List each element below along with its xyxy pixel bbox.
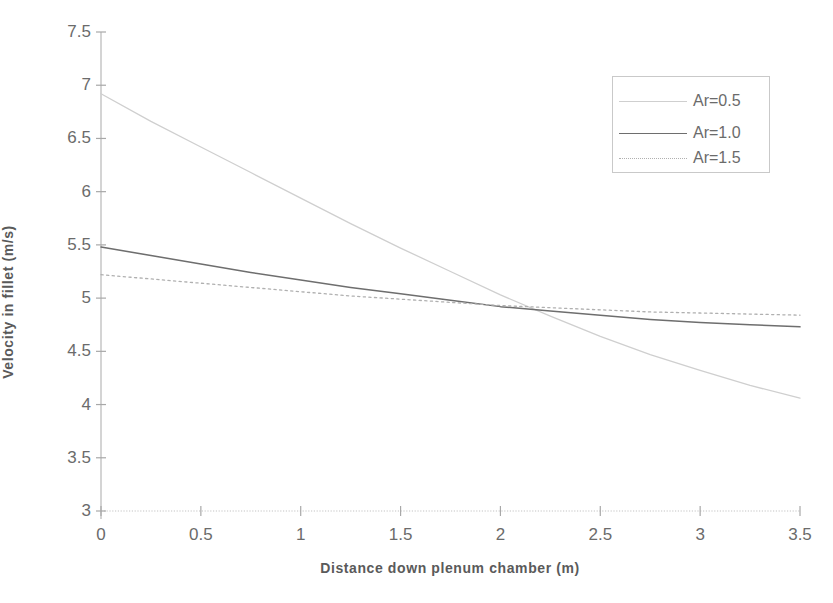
x-axis-tick-label: 3.5	[788, 525, 812, 545]
series-line-ar-1-0	[101, 247, 800, 327]
y-axis-title: Velocity in fillet (m/s)	[0, 162, 16, 442]
y-axis-tick-label: 7	[33, 75, 91, 95]
x-axis-tick-label: 2	[496, 525, 505, 545]
series-line-ar-1-5	[101, 275, 800, 315]
x-axis-tick-label: 2.5	[588, 525, 612, 545]
y-axis-tick-label: 6.5	[33, 128, 91, 148]
y-axis-tick-label: 5	[33, 288, 91, 308]
legend-item-ar-1-5[interactable]: Ar=1.5	[613, 142, 769, 174]
x-axis-tick-label: 0	[96, 525, 105, 545]
y-axis-tick-label: 4.5	[33, 341, 91, 361]
x-axis-tick-label: 0.5	[189, 525, 213, 545]
y-axis-tick-label: 3	[33, 501, 91, 521]
legend-line-sample	[619, 95, 687, 107]
legend-label: Ar=1.0	[693, 124, 741, 142]
x-axis-tick-label: 3	[695, 525, 704, 545]
y-axis-tick-label: 5.5	[33, 235, 91, 255]
x-axis-title: Distance down plenum chamber (m)	[320, 560, 580, 576]
legend-line-sample	[619, 152, 687, 164]
chart-figure: 33.544.555.566.577.5 00.511.522.533.5 Ve…	[0, 0, 833, 603]
y-axis-tick-label: 7.5	[33, 22, 91, 42]
x-axis-tick-label: 1.5	[389, 525, 413, 545]
y-axis-tick-label: 4	[33, 395, 91, 415]
legend: Ar=0.5Ar=1.0Ar=1.5	[612, 76, 770, 173]
legend-item-ar-0-5[interactable]: Ar=0.5	[613, 85, 769, 117]
legend-label: Ar=0.5	[693, 92, 741, 110]
y-axis-tick-label: 6	[33, 182, 91, 202]
y-axis-tick-label: 3.5	[33, 448, 91, 468]
legend-line-sample	[619, 127, 687, 139]
x-axis-tick-label: 1	[296, 525, 305, 545]
legend-label: Ar=1.5	[693, 149, 741, 167]
